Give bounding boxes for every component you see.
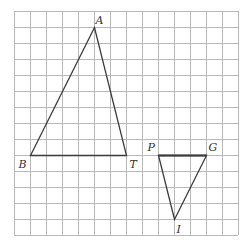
vertex-label-p: P [147, 141, 156, 154]
vertex-label-i: I [176, 223, 182, 236]
diagram-canvas: A B T P G I [0, 0, 251, 250]
vertex-label-t: T [130, 158, 139, 171]
square-grid [14, 11, 239, 236]
grid-diagram: A B T P G I [0, 0, 251, 250]
vertex-label-b: B [18, 158, 27, 171]
vertex-label-a: A [95, 14, 104, 27]
vertex-label-g: G [209, 141, 218, 154]
